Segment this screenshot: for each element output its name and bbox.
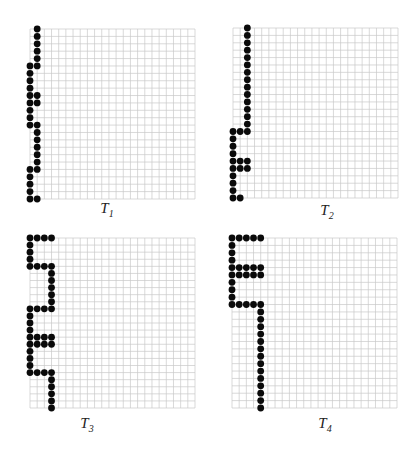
grid-dot bbox=[257, 345, 264, 352]
label-t4-sub: 4 bbox=[327, 423, 332, 434]
grid-dot bbox=[257, 316, 264, 323]
grid-dot bbox=[257, 235, 264, 242]
grid-dot bbox=[257, 397, 264, 404]
grid-dot bbox=[257, 301, 264, 308]
grid-dot bbox=[250, 301, 257, 308]
label-t4-main: T bbox=[318, 415, 326, 431]
grid-dot bbox=[229, 242, 236, 249]
grid-dot bbox=[243, 272, 250, 279]
grid-dot bbox=[257, 338, 264, 345]
grid-dot bbox=[250, 264, 257, 271]
grid-dot bbox=[229, 264, 236, 271]
grid-dot bbox=[229, 294, 236, 301]
grid-dot bbox=[257, 375, 264, 382]
grid-lines bbox=[232, 238, 397, 408]
grid-dot bbox=[229, 272, 236, 279]
grid-dot bbox=[236, 264, 243, 271]
grid-dot bbox=[243, 301, 250, 308]
grid-dot bbox=[257, 264, 264, 271]
grid-dot bbox=[257, 331, 264, 338]
grid-dot bbox=[257, 368, 264, 375]
grid-dot bbox=[236, 301, 243, 308]
grid-dot bbox=[236, 272, 243, 279]
grid-dot bbox=[229, 235, 236, 242]
grid-dot bbox=[257, 309, 264, 316]
grid-dot bbox=[229, 279, 236, 286]
grid-dot bbox=[257, 405, 264, 412]
grid-dot bbox=[257, 323, 264, 330]
grid-dot bbox=[229, 249, 236, 256]
grid-dot bbox=[229, 301, 236, 308]
label-t4: T4 bbox=[305, 415, 345, 434]
grid-dot bbox=[257, 353, 264, 360]
grid-t4-svg bbox=[232, 238, 402, 410]
grid-dot bbox=[257, 272, 264, 279]
grid-dot bbox=[229, 257, 236, 264]
grid-dot bbox=[243, 264, 250, 271]
grid-dot bbox=[236, 235, 243, 242]
grid-dot bbox=[257, 360, 264, 367]
grid-dot bbox=[257, 390, 264, 397]
grid-dot bbox=[229, 286, 236, 293]
grid-t4 bbox=[232, 238, 402, 410]
grid-dot bbox=[243, 235, 250, 242]
grid-dot bbox=[250, 272, 257, 279]
grid-dot bbox=[257, 382, 264, 389]
grid-dot bbox=[250, 235, 257, 242]
panel-t4: T4 bbox=[0, 0, 419, 451]
